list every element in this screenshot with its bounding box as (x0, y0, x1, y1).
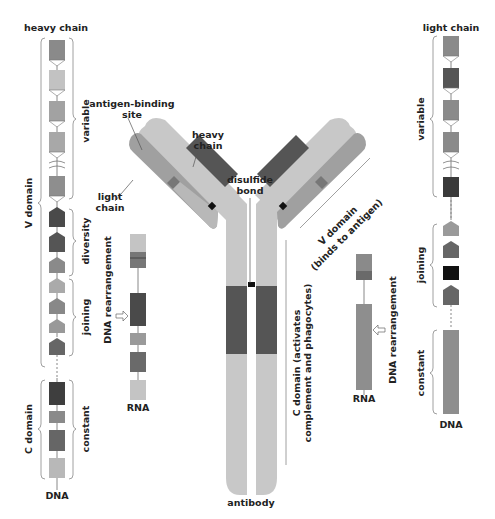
heavy-chain-rna: RNA DNA rearrangement (102, 234, 150, 413)
disulfide-bond-label-2: bond (237, 185, 264, 196)
c-domain-activates-label-1: C domain (activates (291, 309, 302, 416)
rna-label-left: RNA (127, 402, 150, 413)
light-chain-title: light chain (423, 22, 480, 33)
diversity-label: diversity (80, 217, 91, 265)
c-domain-activates-label-2: complement and phagocytes) (302, 284, 313, 443)
constant-label-right: constant (415, 349, 426, 396)
light-chain-label-1: light (98, 191, 123, 202)
heavy-chain-label-2: chain (194, 140, 223, 151)
light-chain-rna: RNA DNA rearrangement (353, 254, 398, 404)
antibody-diagram: heavy chain (0, 0, 495, 519)
arrow-left-icon (373, 325, 385, 335)
antigen-binding-site-label-1: antigen-binding (89, 98, 174, 109)
antibody-label: antibody (227, 497, 275, 508)
light-chain-dna-column: light chain variable joining constant DN… (415, 22, 480, 430)
arrow-right-icon (116, 311, 128, 321)
dna-rearrangement-left: DNA rearrangement (102, 236, 113, 344)
heavy-chain-dna-column: heavy chain (23, 22, 91, 501)
joining-segments-light (443, 221, 459, 305)
antigen-binding-site-label-2: site (122, 109, 142, 120)
c-domain-label: C domain (23, 404, 34, 454)
rna-label-right: RNA (353, 393, 376, 404)
disulfide-bond-label-1: disulfide (227, 174, 273, 185)
constant-segments (49, 382, 65, 478)
joining-label-right: joining (415, 247, 426, 285)
joining-label-left: joining (80, 299, 91, 337)
v-domain-label: V domain (23, 178, 34, 229)
light-chain-label-2: chain (96, 202, 125, 213)
dna-label-right: DNA (439, 419, 463, 430)
diversity-segments (49, 207, 65, 273)
constant-segment-light (443, 330, 459, 414)
dna-rearrangement-right: DNA rearrangement (387, 276, 398, 384)
dna-label-left: DNA (45, 490, 69, 501)
variable-label-right: variable (415, 97, 426, 140)
constant-label-left: constant (80, 405, 91, 452)
variable-segments (49, 40, 65, 202)
heavy-chain-title: heavy chain (24, 22, 88, 33)
heavy-chain-label-1: heavy (192, 129, 225, 140)
